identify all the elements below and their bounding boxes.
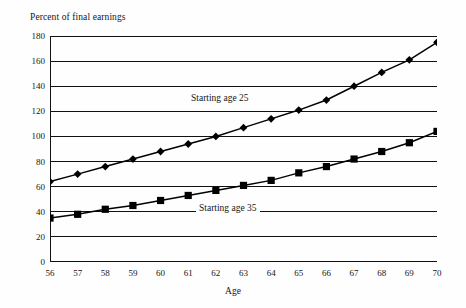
x-tick-label: 70 <box>422 268 452 278</box>
x-tick-label: 65 <box>284 268 314 278</box>
x-tick-label: 56 <box>35 268 65 278</box>
x-tick-label: 67 <box>339 268 369 278</box>
series-label-starting-age-35: Starting age 35 <box>196 203 260 213</box>
x-axis-title: Age <box>0 286 466 296</box>
x-tick-label: 57 <box>63 268 93 278</box>
y-tick-label: 40 <box>21 207 45 217</box>
x-tick-label: 59 <box>118 268 148 278</box>
y-tick-label: 120 <box>21 106 45 116</box>
y-tick-label: 80 <box>21 157 45 167</box>
series-label-starting-age-25: Starting age 25 <box>188 93 252 103</box>
x-tick-label: 60 <box>146 268 176 278</box>
chart-container: Percent of final earnings 02040608010012… <box>0 0 466 308</box>
x-tick-label: 64 <box>256 268 286 278</box>
y-tick-label: 180 <box>21 31 45 41</box>
y-tick-label: 60 <box>21 182 45 192</box>
plot-area <box>50 36 437 262</box>
y-tick-label: 0 <box>21 257 45 267</box>
x-tick-label: 61 <box>173 268 203 278</box>
chart-svg <box>50 36 437 262</box>
y-tick-label: 20 <box>21 232 45 242</box>
x-tick-label: 68 <box>367 268 397 278</box>
x-tick-label: 58 <box>90 268 120 278</box>
y-tick-label: 100 <box>21 131 45 141</box>
x-tick-label: 69 <box>394 268 424 278</box>
x-tick-label: 63 <box>229 268 259 278</box>
x-tick-label: 66 <box>311 268 341 278</box>
y-tick-label: 140 <box>21 81 45 91</box>
y-axis-title: Percent of final earnings <box>30 12 126 22</box>
x-tick-label: 62 <box>201 268 231 278</box>
y-tick-label: 160 <box>21 56 45 66</box>
